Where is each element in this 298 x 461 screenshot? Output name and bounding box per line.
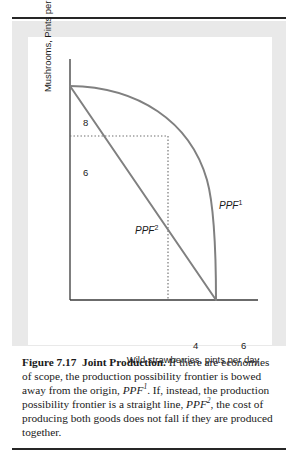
figure-caption: Figure 7.17 Joint Production. If there a…	[22, 355, 277, 440]
figure-panel: 8 6 4 6 PPF1 PPF2 Mushrooms, Pints per d…	[12, 21, 286, 346]
ppf1-label-text: PPF	[219, 200, 238, 211]
x-tick-label-6: 6	[241, 340, 246, 351]
y-tick-label-8: 8	[83, 117, 88, 128]
ppf1-label: PPF1	[219, 200, 242, 211]
ppf2-label-superscript: 2	[154, 224, 158, 231]
caption-ppf1-text: PPF	[123, 384, 144, 396]
caption-ppf2-reference: PPF2	[186, 398, 210, 410]
ppf2-label-text: PPF	[135, 225, 154, 236]
ppf2-line	[70, 86, 216, 300]
ppf2-label: PPF2	[135, 225, 158, 236]
plot-area: 8 6 4 6 PPF1 PPF2 Mushrooms, Pints per d…	[28, 37, 272, 345]
bottom-divider-rule	[12, 448, 286, 450]
x-tick-label-4: 4	[193, 340, 198, 351]
y-tick-label-6: 6	[83, 167, 88, 178]
caption-ppf1-reference: PPF1	[123, 384, 147, 396]
caption-ppf2-text: PPF	[186, 398, 207, 410]
y-axis-title: Mushrooms, Pints per day	[42, 0, 56, 92]
figure-title: Joint Production.	[82, 356, 166, 368]
ppf-chart-svg	[28, 37, 272, 345]
ppf1-label-superscript: 1	[238, 199, 242, 206]
figure-number: Figure 7.17	[22, 356, 76, 368]
